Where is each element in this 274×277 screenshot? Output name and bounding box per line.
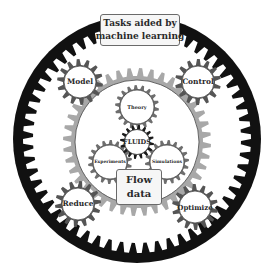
- label-fluids: FLUIDS: [123, 139, 151, 146]
- label-simulations: Simulations: [152, 160, 182, 165]
- label-theory: Theory: [127, 105, 146, 110]
- flow-line-2: data: [127, 189, 152, 199]
- label-model: Model: [67, 78, 93, 86]
- flow-line-1: Flow: [126, 175, 152, 185]
- label-reduce: Reduce: [62, 200, 93, 208]
- label-optimize: Optimize: [177, 204, 212, 211]
- label-control: Control: [182, 78, 214, 86]
- title-line-1: Tasks aided by: [103, 19, 176, 28]
- title-line-2: machine learning: [96, 32, 185, 41]
- label-experiments: Experiments: [94, 160, 126, 165]
